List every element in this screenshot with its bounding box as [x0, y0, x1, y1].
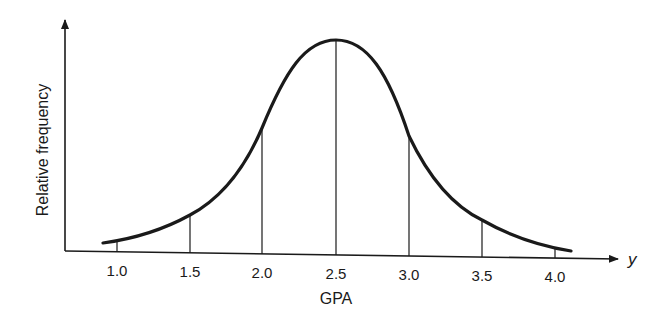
x-tick-label: 3.5 [472, 267, 493, 284]
x-tick-label: 1.5 [180, 263, 201, 280]
x-axis-title: GPA [320, 290, 353, 307]
x-tick-labels: 1.0 1.5 2.0 2.5 3.0 3.5 4.0 [107, 262, 566, 285]
distribution-curve [103, 40, 571, 251]
y-axis-title: Relative frequency [34, 84, 51, 217]
x-variable-label: y [627, 250, 638, 269]
chart-canvas: 1.0 1.5 2.0 2.5 3.0 3.5 4.0 GPA Relative… [0, 0, 663, 321]
x-tick-label: 3.0 [399, 266, 420, 283]
x-tick-label: 2.5 [326, 265, 347, 282]
x-axis [65, 251, 618, 259]
x-tick-label: 4.0 [545, 268, 566, 285]
x-tick-label: 1.0 [107, 262, 128, 279]
x-tick-label: 2.0 [252, 264, 273, 281]
